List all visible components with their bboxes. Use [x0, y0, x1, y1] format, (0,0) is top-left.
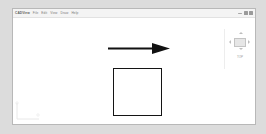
axis-origin-icon: [15, 101, 41, 121]
shape-square[interactable]: [113, 68, 162, 116]
menu-item-draw[interactable]: Draw: [61, 11, 69, 15]
panel-divider: [224, 29, 225, 69]
arrow-left-icon[interactable]: [229, 40, 231, 44]
arrow-right-icon[interactable]: [248, 40, 250, 44]
application-window: CADView File Edit View Draw Help: [12, 8, 256, 125]
view-orientation-label: TOP: [237, 55, 243, 59]
app-title: CADView: [15, 11, 30, 15]
maximize-icon[interactable]: [244, 11, 248, 15]
menu-item-file[interactable]: File: [33, 11, 39, 15]
menu-item-view[interactable]: View: [50, 11, 57, 15]
menubar: CADView File Edit View Draw Help: [13, 9, 255, 18]
drawing-canvas[interactable]: TOP: [13, 18, 255, 124]
menu-item-edit[interactable]: Edit: [41, 11, 47, 15]
navigation-panel: TOP: [227, 30, 253, 76]
menu-item-help[interactable]: Help: [71, 11, 78, 15]
view-cube-icon[interactable]: [228, 30, 252, 54]
arrow-right-icon: [108, 42, 170, 55]
shape-arrow[interactable]: [108, 41, 170, 54]
page-backdrop: CADView File Edit View Draw Help: [0, 0, 266, 134]
arrow-up-icon[interactable]: [239, 32, 243, 34]
minimize-icon[interactable]: [238, 13, 242, 14]
view-cube-face[interactable]: [234, 38, 246, 47]
arrow-down-icon[interactable]: [239, 48, 243, 50]
close-icon[interactable]: [249, 11, 253, 15]
window-controls: [238, 11, 253, 15]
